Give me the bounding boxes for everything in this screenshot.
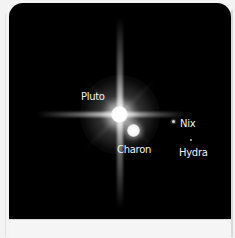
charon-label: Charon <box>117 144 151 156</box>
pluto-body <box>111 106 128 123</box>
nix-label: Nix <box>180 118 195 130</box>
nix-body <box>172 120 175 123</box>
space-image-panel: Pluto Charon Nix Hydra <box>9 3 231 219</box>
frame-right-edge <box>231 10 233 237</box>
hydra-body <box>190 139 192 141</box>
figure-frame: Pluto Charon Nix Hydra <box>0 0 235 237</box>
pluto-label: Pluto <box>81 91 105 103</box>
caption-strip <box>9 219 231 237</box>
frame-left-edge <box>5 14 6 237</box>
hydra-label: Hydra <box>179 147 208 159</box>
charon-body <box>127 124 140 137</box>
